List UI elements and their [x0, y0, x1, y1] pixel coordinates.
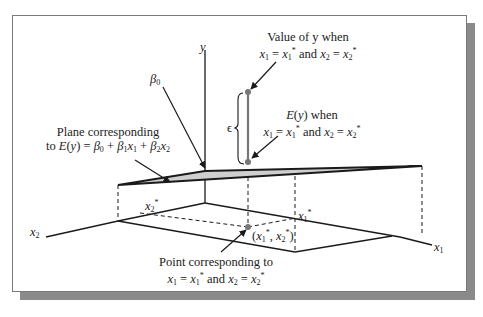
value-of-y-label: Value of y when x1 = x1* and x2 = x2*	[252, 30, 364, 65]
beta0-label: β0	[150, 72, 160, 90]
x2-star-label: x2*	[145, 196, 159, 217]
x2-axis-line	[46, 221, 118, 237]
expected-y-label: E(y) when x1 = x1* and x2 = x2*	[256, 108, 368, 143]
plane-label: Plane corresponding to E(y) = β0 + β1x1 …	[33, 125, 183, 157]
x1-axis-label: x1	[434, 240, 444, 258]
epsilon-label: ϵ	[227, 121, 232, 135]
floor-front-right-edge	[295, 236, 392, 252]
x1-axis-ext	[400, 237, 432, 245]
epsilon-brace	[235, 93, 244, 164]
floor-back-left-edge	[118, 203, 205, 221]
x2-axis-label: x2	[30, 225, 40, 243]
observed-point	[245, 89, 251, 95]
regression-plane	[118, 166, 422, 185]
base-point	[245, 224, 251, 230]
expected-point	[245, 159, 251, 165]
point-label: Point corresponding to x1 = x1* and x2 =…	[146, 255, 286, 290]
x1-star-label: x1*	[298, 206, 312, 227]
point-coords-label: (x1*, x2*)	[252, 226, 294, 247]
y-axis-label: y	[200, 40, 206, 54]
